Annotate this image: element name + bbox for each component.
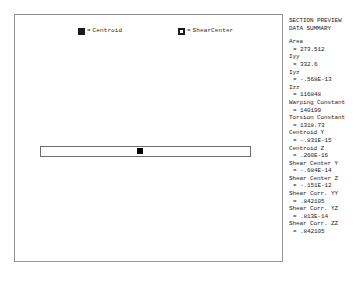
summary-item-label: Iyy [289, 53, 360, 61]
plot-frame: = Centroid = ShearCenter [14, 14, 283, 262]
summary-item-label: Area [289, 38, 360, 46]
summary-item-value: = -.568E-13 [289, 76, 360, 84]
summary-item: Torsion Constant= 1318.73 [289, 114, 360, 129]
summary-item-label: Izz [289, 84, 360, 92]
summary-item: Centroid Z= .260E-16 [289, 145, 360, 160]
summary-item-label: Shear Corr. YZ [289, 205, 360, 213]
legend-label-shearcenter: ShearCenter [193, 28, 234, 34]
summary-item: Shear Center Z= -.151E-12 [289, 175, 360, 190]
summary-item-label: Torsion Constant [289, 114, 360, 122]
legend-entry-shearcenter: = ShearCenter [178, 25, 233, 37]
summary-item-value: = 116848 [289, 91, 360, 99]
section-preview-window: = Centroid = ShearCenter SECTION PREVIEW… [0, 0, 360, 285]
summary-item-value: = -.151E-12 [289, 182, 360, 190]
summary-item: Shear Center Y= -.684E-14 [289, 160, 360, 175]
summary-item-value: = 140199 [289, 107, 360, 115]
data-summary-panel: SECTION PREVIEW DATA SUMMARY Area= 273.5… [289, 17, 360, 236]
summary-item: Shear Corr. YY= .842105 [289, 190, 360, 205]
summary-item-value: = .842105 [289, 228, 360, 236]
summary-item-value: = 273.512 [289, 46, 360, 54]
filled-square-marker-icon [78, 28, 85, 35]
summary-item-label: Centroid Y [289, 129, 360, 137]
summary-item: Area= 273.512 [289, 38, 360, 53]
summary-item-label: Warping Constant [289, 99, 360, 107]
rectangular-cross-section [40, 146, 251, 157]
summary-item-label: Shear Corr. YY [289, 190, 360, 198]
summary-item-value: = -.684E-14 [289, 167, 360, 175]
summary-list: Area= 273.512Iyy= 332.6Iyz= -.568E-13Izz… [289, 38, 360, 235]
summary-item-value: = 332.6 [289, 61, 360, 69]
summary-item-label: Shear Center Y [289, 160, 360, 168]
legend-label-centroid: Centroid [93, 28, 123, 34]
summary-item: Izz= 116848 [289, 84, 360, 99]
summary-item-label: Centroid Z [289, 145, 360, 153]
legend-equals-sign: = [187, 28, 191, 34]
summary-item-label: Iyz [289, 69, 360, 77]
panel-title-line-2: DATA SUMMARY [289, 25, 360, 33]
summary-item-value: = .842105 [289, 198, 360, 206]
summary-item: Iyz= -.568E-13 [289, 69, 360, 84]
summary-item-value: = .813E-14 [289, 213, 360, 221]
summary-item: Iyy= 332.6 [289, 53, 360, 68]
summary-item-label: Shear Corr. ZZ [289, 220, 360, 228]
summary-item: Centroid Y= -.831E-15 [289, 129, 360, 144]
legend-entry-centroid: = Centroid [78, 25, 122, 37]
summary-item: Warping Constant= 140199 [289, 99, 360, 114]
legend-equals-sign: = [87, 28, 91, 34]
summary-item-label: Shear Center Z [289, 175, 360, 183]
panel-title-line-1: SECTION PREVIEW [289, 17, 360, 25]
summary-item: Shear Corr. ZZ= .842105 [289, 220, 360, 235]
summary-item-value: = -.831E-15 [289, 137, 360, 145]
summary-item: Shear Corr. YZ= .813E-14 [289, 205, 360, 220]
summary-item-value: = 1318.73 [289, 122, 360, 130]
legend: = Centroid = ShearCenter [15, 25, 282, 39]
summary-item-value: = .260E-16 [289, 152, 360, 160]
hollow-square-marker-icon [178, 28, 185, 35]
centroid-point-marker [137, 148, 143, 154]
